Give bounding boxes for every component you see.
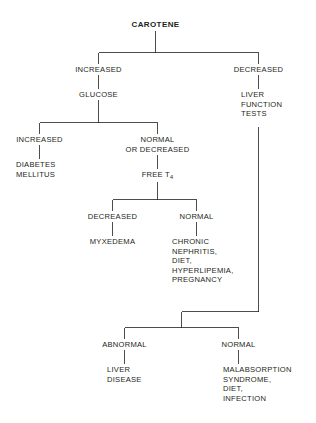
node-t4-normal: NORMAL	[180, 212, 214, 222]
connector-lines	[0, 0, 316, 423]
node-malabsorption-list: MALABSORPTION SYNDROME, DIET, INFECTION	[223, 365, 292, 403]
node-myxedema: MYXEDEMA	[90, 237, 135, 247]
node-lft-normal: NORMAL	[222, 340, 256, 350]
node-normal-or-decreased: NORMAL OR DECREASED	[126, 135, 190, 154]
node-chronic-nephritis-list: CHRONIC NEPHRITIS, DIET, HYPERLIPEMIA, P…	[172, 237, 234, 285]
node-carotene: CAROTENE	[131, 20, 179, 30]
node-t4-decreased: DECREASED	[88, 212, 138, 222]
node-lft-abnormal: ABNORMAL	[102, 340, 147, 350]
node-liver-function-tests: LIVER FUNCTION TESTS	[241, 90, 282, 119]
node-liver-disease: LIVER DISEASE	[107, 365, 142, 384]
free-t4-subscript: 4	[170, 174, 173, 180]
node-diabetes-mellitus: DIABETES MELLITUS	[16, 160, 56, 179]
node-decreased: DECREASED	[234, 65, 284, 75]
node-glucose: GLUCOSE	[79, 90, 118, 100]
node-glucose-increased: INCREASED	[16, 135, 63, 145]
carotene-flowchart: CAROTENE INCREASED DECREASED GLUCOSE LIV…	[0, 0, 316, 423]
free-t4-label: FREE T	[142, 170, 170, 179]
node-free-t4: FREE T4	[142, 170, 174, 181]
node-increased: INCREASED	[75, 65, 122, 75]
